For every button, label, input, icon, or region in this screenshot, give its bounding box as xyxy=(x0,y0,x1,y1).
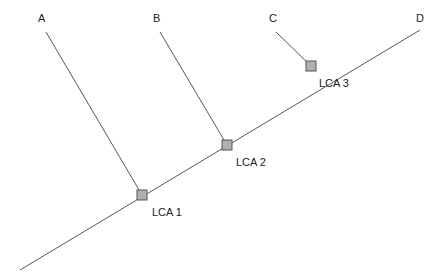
lca3-node xyxy=(306,61,316,71)
cladogram-lines xyxy=(0,0,443,279)
taxon-b-label: B xyxy=(153,12,160,24)
lca2-node xyxy=(222,140,232,150)
taxon-c-label: C xyxy=(269,12,277,24)
lca1-node xyxy=(137,190,147,200)
lca3-label: LCA 3 xyxy=(319,77,349,89)
branch-b xyxy=(160,32,227,145)
main-axis-line xyxy=(20,30,420,270)
taxon-d-label: D xyxy=(416,12,424,24)
branch-a xyxy=(46,32,142,195)
taxon-a-label: A xyxy=(38,12,45,24)
lca1-label: LCA 1 xyxy=(152,206,182,218)
lca2-label: LCA 2 xyxy=(236,156,266,168)
